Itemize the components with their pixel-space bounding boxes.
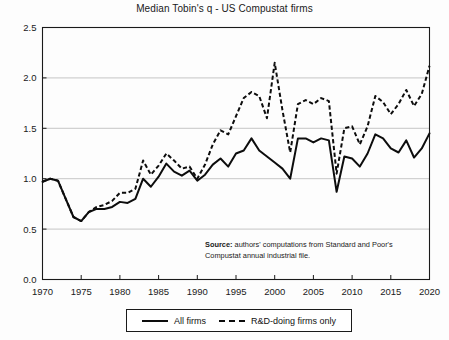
legend-entry-rd-doing-firms: R&D-doing firms only (219, 316, 336, 326)
source-text: authors' computations from Standard and … (205, 240, 393, 260)
x-axis-tick-label: 2020 (419, 286, 440, 297)
y-axis-tick-label: 2.0 (23, 72, 36, 83)
series-line-all-firms (43, 133, 430, 221)
legend-entry-all-firms: All firms (142, 316, 206, 326)
x-axis-tick-labels: 1970197519801985199019952000200520102015… (32, 286, 440, 297)
x-axis-tick-label: 1990 (187, 286, 208, 297)
legend-label-all-firms: All firms (174, 316, 206, 326)
x-axis-tick-label: 1985 (148, 286, 169, 297)
legend-swatch-solid-icon (142, 320, 168, 322)
y-axis-tick-label: 2.5 (23, 22, 36, 33)
plot-area: 0.00.51.01.52.02.5 197019751980198519901… (0, 0, 449, 340)
source-note: Source: authors' computations from Stand… (205, 240, 420, 261)
y-axis-tick-label: 0.0 (23, 274, 36, 285)
x-axis-tick-label: 1995 (225, 286, 246, 297)
chart-legend: All firms R&D-doing firms only (126, 309, 352, 332)
source-label: Source: (205, 240, 233, 249)
y-axis-tick-label: 0.5 (23, 224, 36, 235)
y-axis-tick-labels: 0.00.51.01.52.02.5 (23, 22, 36, 285)
x-axis-tick-label: 1980 (109, 286, 130, 297)
x-axis-tick-label: 2000 (264, 286, 285, 297)
line-chart: 0.00.51.01.52.02.5 197019751980198519901… (0, 0, 449, 340)
y-axis-tick-label: 1.5 (23, 123, 36, 134)
x-axis-tick-label: 2010 (342, 286, 363, 297)
x-axis-tick-label: 1975 (71, 286, 92, 297)
y-axis-tick-label: 1.0 (23, 173, 36, 184)
legend-label-rd-doing-firms: R&D-doing firms only (251, 316, 336, 326)
x-axis-tick-label: 1970 (32, 286, 53, 297)
x-axis-tick-label: 2005 (303, 286, 324, 297)
legend-swatch-dashed-icon (219, 320, 245, 322)
figure-container: Median Tobin's q - US Compustat firms 0.… (0, 0, 449, 340)
x-axis-tick-label: 2015 (380, 286, 401, 297)
